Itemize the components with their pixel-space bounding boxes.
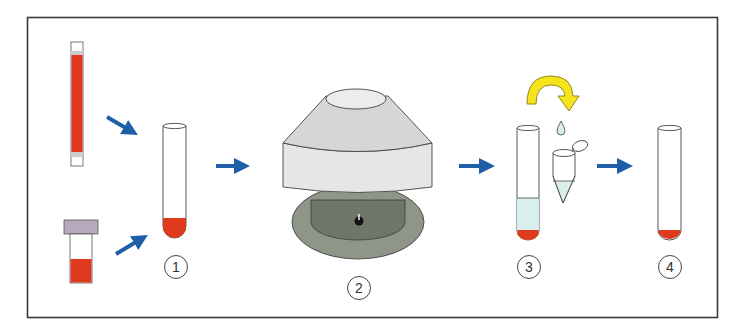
step-4-label: 4	[658, 255, 682, 279]
step-3-label: 3	[517, 255, 541, 279]
diagram-canvas: 1 2 3 4	[0, 0, 738, 331]
test-tube-3	[517, 125, 539, 240]
capillary-tube	[71, 42, 83, 166]
step-1-label: 1	[164, 255, 188, 279]
test-tube-4	[658, 125, 681, 240]
step-2-label: 2	[347, 276, 371, 300]
test-tube-1	[163, 123, 186, 238]
